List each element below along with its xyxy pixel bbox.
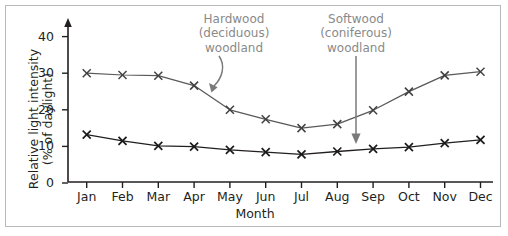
hardwood-annotation-label: Hardwood (deciduous) woodland xyxy=(199,12,270,55)
x-tick-label-apr: Apr xyxy=(183,191,205,204)
softwood-markers xyxy=(83,131,485,159)
y-axis-title-line2: (% of daylight) xyxy=(41,39,55,199)
y-axis xyxy=(64,18,72,182)
x-tick-label-nov: Nov xyxy=(432,191,456,204)
hardwood-markers xyxy=(83,68,485,132)
y-axis-ticks xyxy=(62,37,68,183)
x-tick-label-aug: Aug xyxy=(325,191,349,204)
hardwood-label-line1: Hardwood xyxy=(199,12,270,26)
softwood-label-line3: woodland xyxy=(320,41,392,55)
x-axis-title: Month xyxy=(235,206,274,221)
x-tick-label-feb: Feb xyxy=(111,191,133,204)
x-axis-ticks xyxy=(87,182,481,188)
x-tick-label-may: May xyxy=(217,191,243,204)
softwood-label-line1: Softwood xyxy=(320,12,392,26)
softwood-annotation-label: Softwood (coniferous) woodland xyxy=(320,12,392,55)
x-tick-label-jul: Jul xyxy=(294,191,309,204)
hardwood-label-line2: (deciduous) xyxy=(199,26,270,40)
softwood-annotation-arrow xyxy=(351,56,360,144)
x-tick-label-dec: Dec xyxy=(468,191,492,204)
series-softwood xyxy=(83,131,485,159)
x-tick-label-oct: Oct xyxy=(398,191,420,204)
x-tick-label-mar: Mar xyxy=(147,191,171,204)
x-tick-label-jun: Jun xyxy=(256,191,276,204)
y-axis-title-line1: Relative light intensity xyxy=(27,39,41,199)
hardwood-annotation-arrow xyxy=(209,56,223,93)
x-tick-label-jan: Jan xyxy=(77,191,96,204)
chart-figure: 0 10 20 30 40 Jan Feb Mar Apr May Jun Ju… xyxy=(0,0,508,236)
y-axis-title: Relative light intensity (% of daylight) xyxy=(27,39,55,199)
series-hardwood xyxy=(83,68,485,132)
hardwood-label-line3: woodland xyxy=(199,41,270,55)
x-tick-label-sep: Sep xyxy=(361,191,385,204)
softwood-label-line2: (coniferous) xyxy=(320,26,392,40)
